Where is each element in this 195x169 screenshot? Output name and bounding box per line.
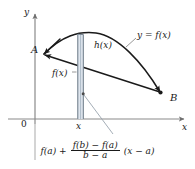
origin-label: 0 [21,120,27,129]
formula-numerator: f(b) − f(a) [71,141,120,150]
f-of-x-label: f(x) [52,69,67,78]
x-axis-label: x [182,123,187,132]
h-of-x-label: h(x) [94,41,112,50]
point-B-label: B [170,93,177,103]
secant-line-formula: f(a) + f(b) − f(a) b − a (x − a) [0,141,195,161]
y-axis-label: y [24,8,29,17]
mvt-figure: y x 0 x A B h(x) f(x) y = f(x) f(a) + f(… [0,0,195,169]
formula-leader-dot [82,92,85,95]
curve-label-leader [126,38,136,47]
formula-lead: f(a) + [41,146,67,156]
point-B-dot [158,90,162,94]
formula-denominator: b − a [81,151,109,160]
formula-fraction: f(b) − f(a) b − a [71,141,120,161]
formula-trailing: (x − a) [124,146,155,156]
x-tick-label: x [76,122,81,131]
function-curve-arrow-left [44,39,60,54]
formula-leader [84,95,113,134]
curve-equation-label: y = f(x) [137,31,171,40]
point-A-label: A [31,45,38,55]
